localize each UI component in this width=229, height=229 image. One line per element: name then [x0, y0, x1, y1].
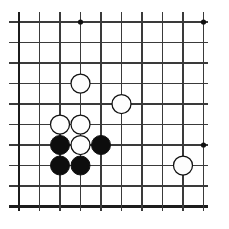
black-stone-4[interactable] [71, 156, 90, 175]
white-stone-1[interactable] [71, 74, 90, 93]
go-board-diagram: Go board position diagram [0, 0, 229, 229]
black-stone-2[interactable] [92, 136, 111, 155]
white-stone-4[interactable] [71, 115, 90, 134]
star-point-d4 [78, 19, 83, 24]
white-stone-5[interactable] [71, 136, 90, 155]
board-grid [9, 12, 208, 211]
black-stone-3[interactable] [51, 156, 70, 175]
white-stone-3[interactable] [51, 115, 70, 134]
star-point-k4 [201, 19, 206, 24]
white-stone-2[interactable] [112, 95, 131, 114]
star-point-k10 [201, 142, 206, 147]
go-board[interactable] [0, 0, 229, 229]
white-stone-6[interactable] [174, 156, 193, 175]
black-stone-1[interactable] [51, 136, 70, 155]
